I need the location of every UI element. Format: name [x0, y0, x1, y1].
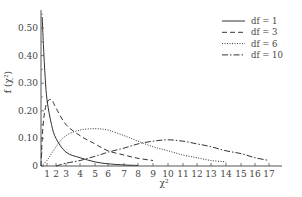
y-tick-label: 0.20 — [18, 106, 38, 116]
y-tick-label: 0.30 — [18, 78, 38, 88]
y-tick-label: 0.40 — [18, 51, 38, 61]
x-tick-label: 15 — [235, 169, 247, 179]
legend-label: df = 6 — [251, 39, 278, 49]
curves — [41, 17, 269, 166]
x-tick-label: 12 — [191, 169, 202, 179]
y-tick-label: 0.50 — [18, 23, 38, 33]
y-axis-label: f (χ²) — [3, 71, 13, 93]
x-axis-label: χ² — [159, 178, 168, 188]
x-tick-label: 9 — [150, 169, 156, 179]
legend-label: df = 3 — [251, 27, 278, 37]
x-tick-label: 17 — [263, 169, 275, 179]
x-tick-label: 16 — [249, 169, 261, 179]
legend-label: df = 10 — [251, 50, 283, 60]
curve-df6 — [41, 129, 226, 166]
x-tick-label: 1 — [44, 169, 50, 179]
x-tick-label: 11 — [177, 169, 188, 179]
legend: df = 1df = 3df = 6df = 10 — [222, 16, 283, 60]
x-tick-label: 7 — [121, 169, 127, 179]
y-axis-ticks: 00.100.200.300.400.50 — [18, 14, 44, 171]
legend-label: df = 1 — [251, 16, 278, 26]
curve-df10 — [56, 140, 269, 166]
x-tick-label: 6 — [105, 169, 111, 179]
axes — [41, 10, 282, 166]
curve-df3 — [41, 99, 153, 166]
x-tick-label: 8 — [135, 169, 141, 179]
x-tick-label: 5 — [92, 169, 98, 179]
x-tick-label: 14 — [220, 169, 232, 179]
x-axis-ticks: 1234567891011121314151617 — [44, 163, 275, 179]
y-tick-label: 0 — [32, 161, 38, 171]
x-tick-label: 4 — [77, 169, 83, 179]
chi-square-chart: 1234567891011121314151617 00.100.200.300… — [0, 0, 302, 197]
x-tick-label: 2 — [53, 169, 59, 179]
x-tick-label: 13 — [205, 169, 217, 179]
x-tick-label: 3 — [63, 169, 69, 179]
curve-df1 — [42, 17, 138, 165]
y-tick-label: 0.10 — [18, 133, 38, 143]
